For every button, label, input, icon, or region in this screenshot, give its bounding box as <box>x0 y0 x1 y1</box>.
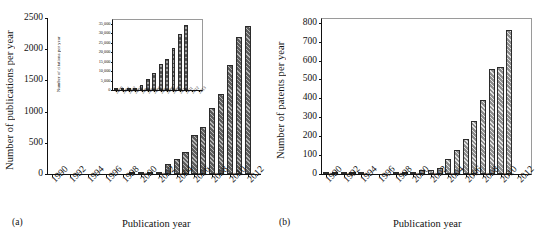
y-tick <box>319 174 323 175</box>
y-tick-label: 400 <box>303 94 317 104</box>
bar <box>497 67 503 174</box>
x-tick <box>168 174 169 176</box>
bar <box>245 26 251 175</box>
y-tick <box>45 143 49 144</box>
y-tick <box>111 90 113 91</box>
y-tick-label: 700 <box>303 37 317 47</box>
y-tick-label: 10,000 <box>99 69 111 73</box>
panel-b-y-axis-title: Number of patents per year <box>275 26 286 174</box>
x-tick <box>492 174 493 176</box>
y-tick-label: 2000 <box>24 44 43 54</box>
bar <box>209 108 215 174</box>
panel-a-tag: (a) <box>12 217 23 227</box>
bar <box>184 25 188 90</box>
x-tick <box>115 174 116 176</box>
panel-a-inset: Number of citations per year 05,00010,00… <box>88 19 203 111</box>
x-tick <box>352 174 353 176</box>
panel-b-tag: (b) <box>279 217 290 227</box>
y-tick <box>45 112 49 113</box>
y-tick-label: 0 <box>38 169 43 179</box>
y-tick <box>45 80 49 81</box>
y-tick <box>111 71 113 72</box>
x-tick <box>257 174 258 176</box>
x-tick <box>422 174 423 176</box>
x-tick <box>61 174 62 176</box>
y-tick-label: 30,000 <box>99 31 111 35</box>
x-tick <box>527 174 528 176</box>
y-tick <box>111 62 113 63</box>
panel-a-y-axis-title: Number of publications per year <box>4 24 15 176</box>
y-tick-label: 2500 <box>24 13 43 23</box>
inset-y-axis-title: Number of citations per year <box>56 25 64 103</box>
panel-a-x-axis-title: Publication year <box>122 218 191 229</box>
x-tick <box>239 174 240 176</box>
x-tick <box>132 174 133 176</box>
y-tick-label: 5,000 <box>101 78 111 82</box>
x-tick <box>150 174 151 176</box>
y-tick-label: 20,000 <box>99 50 111 54</box>
y-tick <box>319 155 323 156</box>
y-tick-label: 1500 <box>24 76 43 86</box>
bar <box>218 94 224 174</box>
y-tick <box>319 23 323 24</box>
bar <box>178 34 182 90</box>
y-tick <box>319 117 323 118</box>
y-tick <box>45 49 49 50</box>
y-tick-label: 0 <box>108 88 110 92</box>
bar <box>506 30 512 174</box>
x-tick <box>203 174 204 176</box>
x-tick <box>405 174 406 176</box>
x-tick <box>370 174 371 176</box>
panel-b: Number of patents per year 0100200300400… <box>271 0 542 239</box>
x-tick <box>221 174 222 176</box>
x-tick <box>509 174 510 176</box>
x-tick <box>79 174 80 176</box>
inset-plot-area: 05,00010,00015,00020,00025,00030,00035,0… <box>112 19 203 91</box>
y-tick <box>319 98 323 99</box>
y-tick <box>111 43 113 44</box>
y-tick <box>319 79 323 80</box>
y-tick-label: 600 <box>303 56 317 66</box>
y-tick <box>111 24 113 25</box>
panel-b-x-axis-title: Publication year <box>393 218 462 229</box>
x-tick <box>457 174 458 176</box>
y-tick-label: 500 <box>303 75 317 85</box>
x-tick <box>474 174 475 176</box>
y-tick-label: 200 <box>303 131 317 141</box>
y-tick <box>319 61 323 62</box>
y-tick <box>319 42 323 43</box>
y-tick-label: 25,000 <box>99 41 111 45</box>
y-tick-label: 800 <box>303 18 317 28</box>
x-tick <box>97 174 98 176</box>
bar <box>480 100 486 174</box>
y-tick-label: 300 <box>303 113 317 123</box>
y-tick-label: 15,000 <box>99 59 111 63</box>
y-tick <box>45 174 49 175</box>
panel-b-plot-area: 0100200300400500600700800199019921994199… <box>321 18 532 175</box>
bar <box>172 48 176 90</box>
bar <box>489 69 495 174</box>
x-tick <box>387 174 388 176</box>
bar <box>227 65 233 174</box>
y-tick-label: 500 <box>29 138 43 148</box>
y-tick <box>111 33 113 34</box>
y-tick-label: 100 <box>303 150 317 160</box>
bar <box>236 37 242 174</box>
x-tick <box>440 174 441 176</box>
y-tick <box>111 81 113 82</box>
y-tick-label: 0 <box>312 169 317 179</box>
y-tick-label: 35,000 <box>99 22 111 26</box>
x-tick <box>186 174 187 176</box>
y-tick-label: 1000 <box>24 107 43 117</box>
y-tick <box>111 52 113 53</box>
y-tick <box>319 136 323 137</box>
panel-b-bars <box>322 19 531 174</box>
x-tick <box>335 174 336 176</box>
figure-publication-patent-trends: Number of publications per year 05001000… <box>0 0 542 239</box>
inset-bars <box>113 20 202 90</box>
y-tick <box>45 18 49 19</box>
panel-a: Number of publications per year 05001000… <box>0 0 271 239</box>
